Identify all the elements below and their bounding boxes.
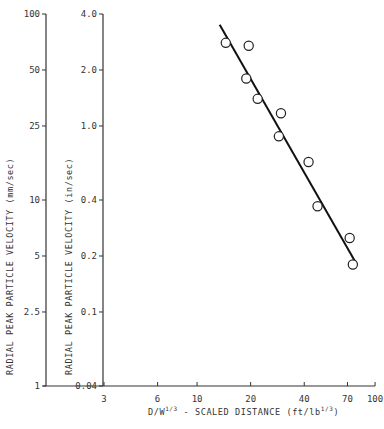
x-tick: 40 — [299, 394, 310, 404]
data-point — [253, 94, 262, 103]
data-point — [313, 202, 322, 211]
x-tick: 70 — [342, 394, 353, 404]
x-tick: 3 — [101, 394, 106, 404]
x-tick: 6 — [155, 394, 160, 404]
y-axis-label-right: RADIAL PEAK PARTICLE VELOCITY (in/sec) — [64, 158, 74, 375]
y-tick-right: 0.2 — [81, 251, 97, 261]
scatter-chart: 4.02.01.00.40.20.10.0410050251052.513610… — [0, 0, 384, 429]
y-tick-right: 0.4 — [81, 195, 97, 205]
ticks: 4.02.01.00.40.20.10.0410050251052.513610… — [24, 9, 383, 404]
data-point — [304, 157, 313, 166]
data-points — [221, 38, 357, 269]
x-tick: 100 — [367, 394, 383, 404]
y-tick-left: 5 — [35, 251, 40, 261]
data-point — [242, 74, 251, 83]
data-point — [244, 41, 253, 50]
y-tick-right: 4.0 — [81, 9, 97, 19]
y-tick-right: 0.1 — [81, 307, 97, 317]
y-tick-left: 1 — [35, 381, 40, 391]
y-tick-left: 25 — [29, 121, 40, 131]
data-point — [221, 38, 230, 47]
y-tick-left: 100 — [24, 9, 40, 19]
y-tick-right: 0.04 — [75, 381, 97, 391]
y-tick-left: 50 — [29, 65, 40, 75]
data-point — [345, 233, 354, 242]
x-axis-label: D/W1/3 - SCALED DISTANCE (ft/lb1/3) — [148, 405, 339, 417]
y-tick-right: 2.0 — [81, 65, 97, 75]
y-tick-right: 1.0 — [81, 121, 97, 131]
y-tick-left: 2.5 — [24, 307, 40, 317]
x-tick: 10 — [192, 394, 203, 404]
y-axis-label-left: RADIAL PEAK PARTICLE VELOCITY (mm/sec) — [5, 158, 15, 375]
fit-line — [220, 25, 357, 265]
y-tick-left: 10 — [29, 195, 40, 205]
data-point — [274, 132, 283, 141]
data-point — [276, 109, 285, 118]
x-tick: 20 — [245, 394, 256, 404]
data-point — [348, 260, 357, 269]
